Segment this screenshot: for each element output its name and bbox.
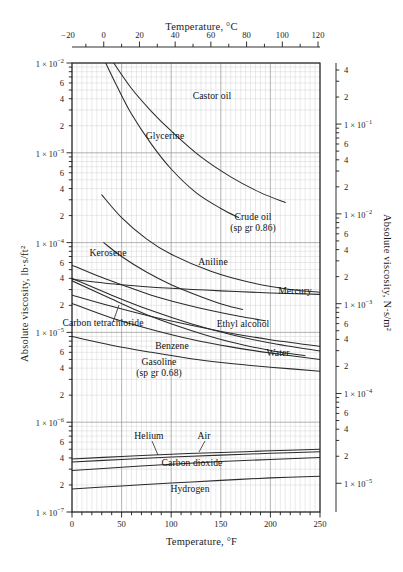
fahrenheit-tick-0: 0 (70, 519, 74, 529)
curve-label-kerosene: Kerosene (89, 247, 126, 258)
viscosity-chart-figure: Temperature, °C Temperature, °F Absolute… (0, 0, 403, 572)
left-minor-4e-3: 4 (60, 94, 64, 104)
left-minor-4e-6: 4 (60, 363, 64, 373)
right-minor-2e-4: 2 (344, 361, 348, 371)
right-minor-6e-5: 6 (344, 408, 348, 418)
left-decade-1e-3: 1 × 10−3 (36, 147, 64, 159)
celsius-tick--20: −20 (61, 30, 74, 40)
right-decade-1e-1: 1 × 10−1 (344, 118, 372, 130)
left-decade-1e-4: 1 × 10−4 (36, 237, 64, 249)
celsius-tick-40: 40 (171, 30, 180, 40)
left-minor-2e-3: 2 (60, 121, 64, 131)
curve-label-mercury: Mercury (278, 285, 312, 296)
right-minor-4e-5: 4 (344, 424, 348, 434)
left-minor-2e-7: 2 (60, 480, 64, 490)
right-minor-4e-2: 4 (344, 155, 348, 165)
right-decade-1e-2: 1 × 10−2 (344, 208, 372, 220)
right-minor-4e-1: 4 (344, 65, 348, 75)
curve-castor-oil (114, 63, 286, 202)
right-minor-6e-4: 6 (344, 319, 348, 329)
left-minor-6e-4: 6 (60, 168, 64, 178)
fahrenheit-axis-ticks (72, 512, 320, 518)
curve-label-carbon-tetrachloride: Carbon tetrachloride (62, 317, 143, 328)
curve-label-benzene: Benzene (155, 340, 189, 351)
curve-label-castor-oil: Castor oil (193, 90, 232, 101)
right-axis-ticks (336, 70, 342, 483)
left-minor-6e-5: 6 (60, 258, 64, 268)
curve-label-ethyl-alcohol: Ethyl alcohol (217, 318, 270, 329)
left-minor-6e-7: 6 (60, 437, 64, 447)
right-minor-2e-1: 2 (344, 92, 348, 102)
curve-label-helium: Helium (134, 430, 163, 441)
right-minor-4e-4: 4 (344, 334, 348, 344)
right-decade-1e-3: 1 × 10−3 (344, 298, 372, 310)
curve-label-water: Water (266, 347, 289, 358)
celsius-tick-20: 20 (135, 30, 144, 40)
fahrenheit-tick-200: 200 (264, 519, 277, 529)
celsius-tick-100: 100 (276, 30, 289, 40)
left-minor-6e-6: 6 (60, 347, 64, 357)
curve-label-aniline: Aniline (198, 256, 227, 267)
celsius-tick-60: 60 (207, 30, 216, 40)
left-minor-6e-3: 6 (60, 78, 64, 88)
right-decade-1e-5: 1 × 10−5 (344, 477, 372, 489)
curve-kerosene (72, 265, 265, 320)
right-minor-6e-2: 6 (344, 139, 348, 149)
curve-label-crude-oil-sp-gr-0-86: Crude oil(sp gr 0.86) (230, 212, 276, 233)
curve-label-hydrogen: Hydrogen (170, 483, 209, 494)
right-minor-2e-2: 2 (344, 182, 348, 192)
right-minor-2e-5: 2 (344, 451, 348, 461)
left-minor-2e-6: 2 (60, 390, 64, 400)
right-minor-6e-3: 6 (344, 229, 348, 239)
celsius-axis-ticks (86, 42, 318, 48)
curve-label-air: Air (197, 430, 210, 441)
celsius-tick-80: 80 (242, 30, 251, 40)
left-decade-1e-2: 1 × 10−2 (36, 57, 64, 69)
right-decade-1e-4: 1 × 10−4 (344, 388, 372, 400)
celsius-tick-0: 0 (102, 30, 106, 40)
curve-label-gasoline-sp-gr-0-68: Gasoline(sp gr 0.68) (136, 357, 182, 378)
right-minor-2e-3: 2 (344, 272, 348, 282)
celsius-tick-120: 120 (312, 30, 325, 40)
left-minor-4e-7: 4 (60, 453, 64, 463)
left-decade-1e-6: 1 × 10−6 (36, 416, 64, 428)
fahrenheit-tick-250: 250 (314, 519, 327, 529)
fahrenheit-tick-50: 50 (117, 519, 126, 529)
right-minor-4e-3: 4 (344, 245, 348, 255)
left-minor-4e-4: 4 (60, 184, 64, 194)
fahrenheit-tick-100: 100 (165, 519, 178, 529)
left-minor-2e-5: 2 (60, 300, 64, 310)
left-decade-1e-5: 1 × 10−5 (36, 326, 64, 338)
left-minor-4e-5: 4 (60, 273, 64, 283)
left-decade-1e-7: 1 × 10−7 (36, 506, 64, 518)
curve-label-carbon-dioxide: Carbon dioxide (162, 457, 223, 468)
curve-label-glycerine: Glycerine (146, 130, 185, 141)
left-minor-2e-4: 2 (60, 211, 64, 221)
left-axis-ticks (67, 63, 73, 512)
fahrenheit-tick-150: 150 (214, 519, 227, 529)
